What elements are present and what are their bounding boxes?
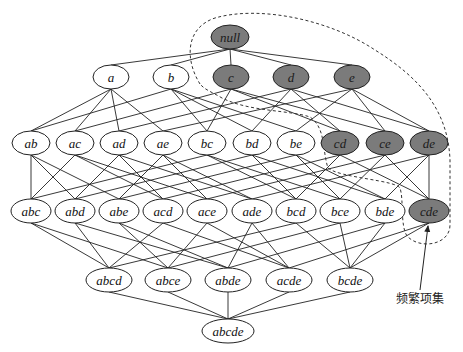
lattice-nodes: nullabcdeabacadaebcbdbecdcedeabcabdabeac… [11, 25, 449, 343]
edge-cde-acde [289, 223, 429, 268]
itemset-node-b: b [153, 65, 189, 89]
itemset-node-acde: acde [266, 268, 312, 292]
edge-d-ad [119, 89, 291, 131]
node-label: abd [65, 204, 85, 219]
itemset-node-bd: bd [233, 131, 271, 155]
edge-bde-bcde [350, 223, 385, 268]
edge-e-ce [352, 89, 385, 131]
node-label: c [228, 70, 234, 85]
edge-bd-abd [75, 155, 252, 199]
edge-bd-bcd [252, 155, 296, 199]
edge-cd-acd [163, 155, 340, 199]
itemset-lattice-diagram: nullabcdeabacadaebcbdbecdcedeabcabdabeac… [0, 0, 463, 352]
edge-null-a [111, 49, 230, 65]
node-label: abce [156, 273, 181, 288]
node-label: abe [110, 204, 129, 219]
itemset-node-ad: ad [100, 131, 138, 155]
itemset-node-a: a [93, 65, 129, 89]
itemset-node-de: de [410, 131, 448, 155]
edge-bcd-abcd [109, 223, 296, 268]
itemset-node-null: null [211, 25, 249, 49]
itemset-node-ace: ace [187, 199, 227, 223]
itemset-node-bce: bce [320, 199, 360, 223]
edge-be-abe [119, 155, 296, 199]
node-label: bd [246, 136, 260, 151]
itemset-node-acd: acd [143, 199, 183, 223]
itemset-node-cd: cd [321, 131, 359, 155]
itemset-node-bcd: bcd [276, 199, 316, 223]
itemset-node-d: d [273, 65, 309, 89]
node-label: be [290, 136, 303, 151]
node-label: null [220, 30, 241, 45]
node-label: ce [379, 136, 391, 151]
edge-ce-ace [207, 155, 385, 199]
edge-d-de [291, 89, 429, 131]
itemset-node-ae: ae [144, 131, 182, 155]
edge-ab-abe [31, 155, 119, 199]
itemset-node-bde: bde [365, 199, 405, 223]
edge-abd-abcd [75, 223, 109, 268]
edge-null-d [230, 49, 291, 65]
arrow-icon [420, 226, 428, 290]
node-label: ae [157, 136, 170, 151]
edge-null-e [230, 49, 352, 65]
node-label: ac [69, 136, 82, 151]
node-label: abcde [212, 324, 243, 339]
node-label: bcd [287, 204, 306, 219]
node-label: de [423, 136, 436, 151]
itemset-node-abd: abd [55, 199, 95, 223]
itemset-node-be: be [277, 131, 315, 155]
node-label: acde [277, 273, 302, 288]
edge-bc-abc [31, 155, 207, 199]
edge-b-ab [31, 89, 171, 131]
node-label: d [288, 70, 295, 85]
edge-bcde-abcde [228, 292, 350, 319]
node-label: ade [243, 204, 262, 219]
edge-abcd-abcde [109, 292, 228, 319]
edge-b-bd [171, 89, 252, 131]
itemset-node-abce: abce [145, 268, 191, 292]
itemset-node-ade: ade [232, 199, 272, 223]
edge-abce-abcde [168, 292, 228, 319]
node-label: abc [22, 204, 41, 219]
node-label: ad [113, 136, 127, 151]
node-label: bce [331, 204, 349, 219]
node-label: acd [154, 204, 173, 219]
node-label: cd [334, 136, 347, 151]
node-label: b [168, 70, 175, 85]
itemset-node-c: c [213, 65, 249, 89]
edge-cd-cde [340, 155, 429, 199]
itemset-node-abcd: abcd [86, 268, 132, 292]
edge-ae-ace [163, 155, 207, 199]
itemset-node-ab: ab [12, 131, 50, 155]
edge-null-b [171, 49, 230, 65]
itemset-node-cde: cde [409, 199, 449, 223]
itemset-node-ac: ac [56, 131, 94, 155]
frequent-itemset-label: 频繁项集 [396, 291, 444, 306]
itemset-node-bc: bc [188, 131, 226, 155]
node-label: abcd [96, 273, 122, 288]
edge-acde-abcde [228, 292, 289, 319]
edge-a-ae [111, 89, 163, 131]
itemset-node-abc: abc [11, 199, 51, 223]
itemset-node-e: e [334, 65, 370, 89]
node-label: abde [215, 273, 241, 288]
itemset-node-bcde: bcde [327, 268, 373, 292]
itemset-node-abcde: abcde [202, 319, 254, 343]
edge-ce-bce [340, 155, 385, 199]
node-label: ab [25, 136, 39, 151]
itemset-node-abe: abe [99, 199, 139, 223]
edge-ad-abd [75, 155, 119, 199]
edge-c-ce [231, 89, 385, 131]
edge-a-ac [75, 89, 111, 131]
edge-null-c [230, 49, 231, 65]
edge-d-cd [291, 89, 340, 131]
edge-de-ade [252, 155, 429, 199]
node-label: e [349, 70, 355, 85]
node-label: cde [420, 204, 438, 219]
itemset-node-ce: ce [366, 131, 404, 155]
edge-bce-abce [168, 223, 340, 268]
edge-abe-abce [119, 223, 168, 268]
node-label: bde [376, 204, 395, 219]
node-label: bc [201, 136, 214, 151]
